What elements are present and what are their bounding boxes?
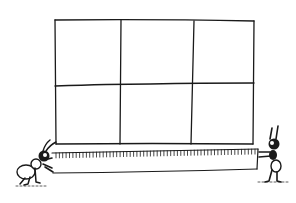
grid-left-edge: [55, 20, 56, 144]
grid-horizontal-divider: [55, 83, 254, 86]
left-ant-arms: [43, 158, 53, 172]
right-ant-eye: [270, 141, 274, 145]
right-ant-head: [269, 139, 280, 150]
right-ant: [258, 126, 288, 182]
grid-top-edge: [55, 20, 254, 21]
left-ant-thorax: [31, 159, 41, 169]
rectangle-grid: [55, 20, 254, 144]
grid-bottom-edge: [56, 144, 253, 145]
illustration: [0, 0, 296, 203]
right-ant-antenna-1: [270, 128, 272, 139]
measuring-tape: [52, 149, 258, 173]
grid-vertical-divider-1: [120, 20, 121, 144]
left-ant: [16, 140, 56, 186]
left-ant-eye: [43, 153, 47, 157]
tape-bottom-edge: [53, 169, 257, 173]
tape-right-end: [257, 149, 258, 169]
right-ant-antenna-2: [276, 126, 278, 139]
grid-vertical-divider-2: [191, 21, 194, 144]
